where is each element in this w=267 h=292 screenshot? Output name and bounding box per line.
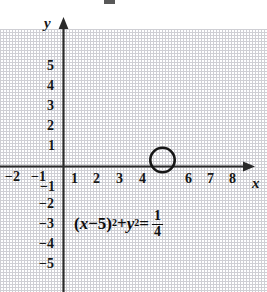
equation-minus: − xyxy=(88,215,98,232)
y-tick-3: 3 xyxy=(47,99,54,113)
x-tick-4: 4 xyxy=(139,172,146,186)
x-tick-2: 2 xyxy=(93,172,100,186)
y-tick-neg-3: −3 xyxy=(39,217,54,231)
equation-plus: + xyxy=(117,215,127,232)
x-tick-8: 8 xyxy=(229,172,236,186)
y-axis-arrowhead xyxy=(59,17,69,29)
graph-figure: y x 5 4 3 2 1 −1 −2 −3 −4 −5 −2 −1 1 2 3… xyxy=(0,0,267,292)
equation-var-y: y xyxy=(127,215,135,232)
equation-fraction: 1 4 xyxy=(152,209,163,239)
y-tick-4: 4 xyxy=(47,79,54,93)
x-tick-3: 3 xyxy=(116,172,123,186)
y-axis-label: y xyxy=(44,16,51,31)
equation-annotation: (x − 5)2 + y2 = 1 4 xyxy=(74,208,163,238)
fraction-denominator: 4 xyxy=(152,224,163,240)
y-tick-neg-4: −4 xyxy=(39,237,54,251)
y-tick-neg-5: −5 xyxy=(39,257,54,271)
x-axis-arrowhead xyxy=(243,161,255,171)
x-tick-7: 7 xyxy=(207,172,214,186)
y-tick-neg-2: −2 xyxy=(39,197,54,211)
y-tick-5: 5 xyxy=(47,59,54,73)
fraction-numerator: 1 xyxy=(152,209,163,224)
x-tick-neg-1: −1 xyxy=(31,170,46,184)
plotted-circle xyxy=(150,148,174,172)
y-tick-1: 1 xyxy=(48,139,55,153)
x-tick-6: 6 xyxy=(185,172,192,186)
x-tick-1: 1 xyxy=(71,172,78,186)
x-tick-neg-2: −2 xyxy=(5,170,20,184)
equation-equals: = xyxy=(139,215,149,232)
y-tick-2: 2 xyxy=(47,119,54,133)
equation-var-x: x xyxy=(80,215,89,232)
equation-const-5: 5 xyxy=(98,215,107,232)
x-axis-label: x xyxy=(252,176,260,191)
